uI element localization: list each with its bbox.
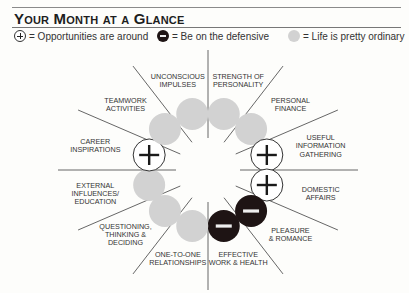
sector-label: Domestic Affairs (302, 186, 340, 202)
sector-label: Effective Work & Health (209, 251, 268, 267)
sector-marker-defensive (208, 210, 240, 242)
sector-label: Questioning, Thinking & Deciding (99, 223, 151, 248)
sector-label: Useful Information Gathering (296, 134, 346, 159)
sector-marker-defensive (235, 195, 267, 227)
sector-marker-ordinary (176, 98, 208, 130)
sector-label: Career Inspirations (70, 138, 120, 154)
sector-marker-ordinary (176, 210, 208, 242)
sector-label: Personal Finance (271, 97, 310, 113)
sector-marker-ordinary (149, 113, 181, 145)
sector-label: Teamwork Activities (104, 97, 146, 113)
sector-marker-ordinary (133, 169, 165, 201)
sector-label: One-to-One Relationships (149, 251, 206, 267)
sector-marker-opportunity (251, 139, 283, 171)
sector-label: External Influences/ Education (72, 181, 120, 206)
sector-marker-ordinary (208, 98, 240, 130)
sector-label: Strength of Personality (212, 73, 264, 89)
month-wheel (0, 0, 409, 293)
sector-label: Unconscious Impulses (151, 73, 205, 89)
sector-label: Pleasure & Romance (269, 227, 313, 243)
